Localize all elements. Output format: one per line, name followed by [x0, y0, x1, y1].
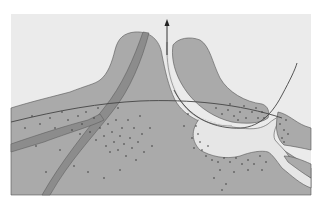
cross-section-diagram — [0, 0, 322, 205]
diagram-canvas — [0, 0, 322, 205]
